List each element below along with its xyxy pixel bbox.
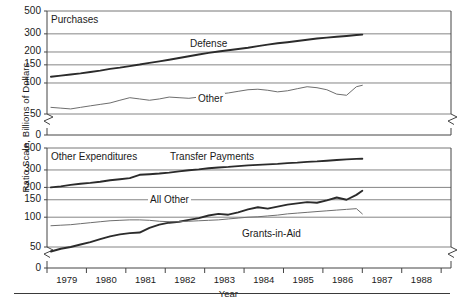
x-tick-1980: 1980	[84, 275, 128, 285]
footer-divider	[14, 293, 450, 294]
x-tick-1982: 1982	[163, 275, 207, 285]
y-tick-bottom-50: 50	[11, 242, 41, 252]
x-tick-1987: 1987	[360, 275, 404, 285]
y-tick-top-50: 50	[11, 109, 41, 119]
series-label-all-other: All Other	[148, 194, 191, 205]
y-tick-top-0: 0	[11, 130, 41, 140]
y-tick-top-500: 500	[11, 6, 41, 16]
figure-root: Ratio Scale, Billions of Dollars 5003002…	[0, 0, 464, 304]
y-tick-bottom-150: 150	[11, 194, 41, 204]
y-tick-bottom-500: 500	[11, 143, 41, 153]
series-label-defense: Defense	[188, 38, 229, 49]
series-label-grants-in-aid: Grants-in-Aid	[240, 228, 303, 239]
x-tick-1985: 1985	[281, 275, 325, 285]
y-tick-bottom-0: 0	[11, 263, 41, 273]
y-tick-bottom-200: 200	[11, 182, 41, 192]
panel-title-other-expenditures: Other Expenditures	[51, 151, 137, 162]
x-tick-1981: 1981	[124, 275, 168, 285]
x-tick-1983: 1983	[202, 275, 246, 285]
y-tick-bottom-100: 100	[11, 212, 41, 222]
series-label-other: Other	[196, 93, 225, 104]
y-tick-top-100: 100	[11, 77, 41, 87]
x-tick-1986: 1986	[321, 275, 365, 285]
x-axis-title: Year	[198, 289, 258, 299]
y-tick-top-200: 200	[11, 46, 41, 56]
y-tick-top-150: 150	[11, 59, 41, 69]
panel-title-purchases: Purchases	[51, 14, 98, 25]
series-label-transfer-payments: Transfer Payments	[168, 151, 256, 162]
x-tick-1984: 1984	[242, 275, 286, 285]
x-tick-1988: 1988	[399, 275, 443, 285]
y-tick-bottom-300: 300	[11, 164, 41, 174]
y-tick-top-300: 300	[11, 28, 41, 38]
x-tick-1979: 1979	[45, 275, 89, 285]
